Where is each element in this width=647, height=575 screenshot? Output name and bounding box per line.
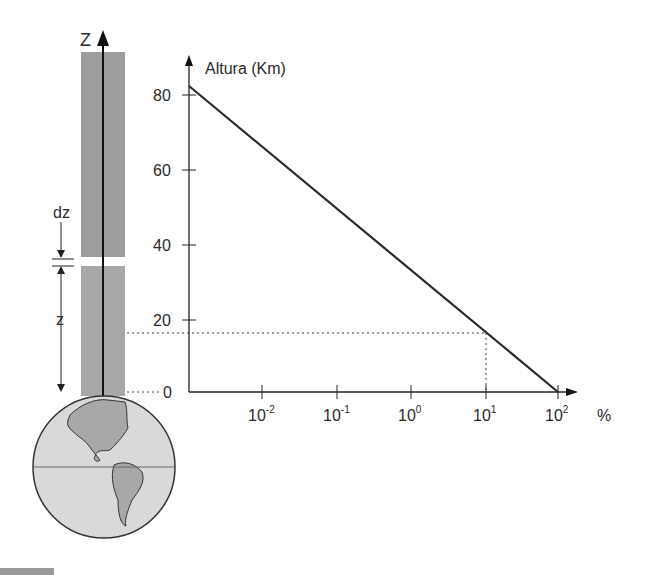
corner-block xyxy=(0,568,54,575)
y-axis-title: Altura (Km) xyxy=(205,60,286,77)
dz-marker: dz xyxy=(52,204,74,274)
z-arrow-icon xyxy=(97,30,109,46)
svg-text:40: 40 xyxy=(153,237,171,254)
svg-text:60: 60 xyxy=(153,162,171,179)
svg-text:101: 101 xyxy=(473,404,497,424)
svg-text:20: 20 xyxy=(153,312,171,329)
svg-text:80: 80 xyxy=(153,87,171,104)
x-axis-arrow-icon xyxy=(566,388,578,396)
altitude-line xyxy=(189,86,558,392)
x-axis-unit: % xyxy=(597,407,611,424)
x-ticks: 10-2 10-1 100 101 102 xyxy=(248,385,569,424)
altitude-diagram: Z dz z Altura (Km) 80 60 40 20 0 xyxy=(0,0,647,575)
svg-text:0: 0 xyxy=(163,384,172,401)
z-axis-label: Z xyxy=(80,30,91,50)
svg-text:10-2: 10-2 xyxy=(248,404,275,424)
z-height-marker: z xyxy=(56,272,65,392)
svg-text:10-1: 10-1 xyxy=(323,404,350,424)
y-axis-arrow-icon xyxy=(185,55,193,66)
dz-label: dz xyxy=(53,204,70,221)
z-label: z xyxy=(56,311,64,328)
globe-icon xyxy=(33,396,175,538)
svg-text:102: 102 xyxy=(545,404,569,424)
svg-text:100: 100 xyxy=(398,404,422,424)
